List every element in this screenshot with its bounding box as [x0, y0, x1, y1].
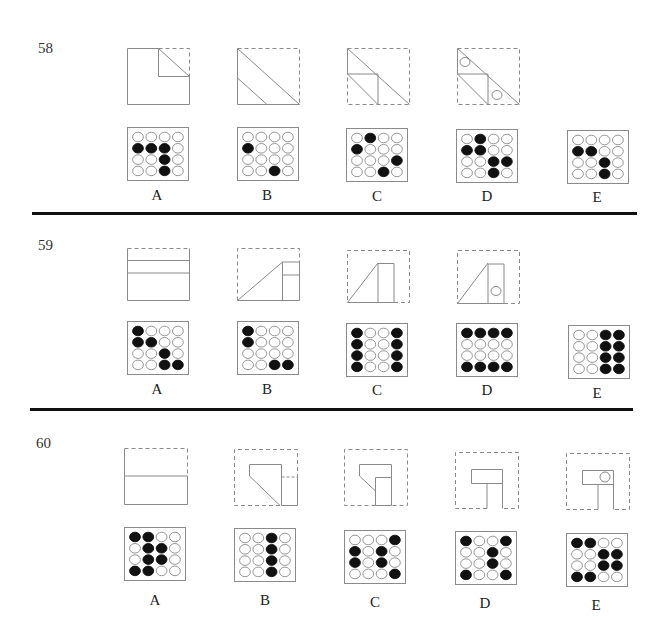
q59-option-b-label[interactable]: B: [247, 381, 287, 398]
q59-option-c-label[interactable]: C: [357, 382, 397, 399]
empty-dot-icon: [146, 166, 157, 176]
dot-grid: [237, 127, 299, 181]
empty-dot-icon: [253, 545, 264, 555]
filled-dot-icon: [462, 362, 473, 372]
q58-option-a-grid[interactable]: [127, 127, 189, 181]
empty-dot-icon: [240, 533, 251, 543]
empty-dot-icon: [256, 155, 267, 165]
q60-option-e-label[interactable]: E: [576, 597, 616, 614]
filled-dot-icon: [462, 146, 473, 156]
empty-dot-icon: [269, 326, 280, 336]
q58-option-d-grid[interactable]: [456, 129, 518, 183]
empty-dot-icon: [243, 155, 254, 165]
q58-option-e-grid[interactable]: [567, 130, 629, 184]
filled-dot-icon: [573, 147, 584, 157]
empty-dot-icon: [598, 538, 609, 548]
dot-grid: [455, 531, 517, 585]
q59-option-a-grid[interactable]: [127, 321, 189, 375]
filled-dot-icon: [156, 555, 167, 565]
q59-fold-step-1: [127, 248, 190, 301]
filled-dot-icon: [475, 362, 486, 372]
filled-dot-icon: [133, 144, 144, 154]
dot-grid: [124, 527, 186, 581]
filled-dot-icon: [488, 362, 499, 372]
filled-dot-icon: [502, 362, 513, 372]
empty-dot-icon: [283, 144, 294, 154]
empty-dot-icon: [475, 168, 486, 178]
empty-dot-icon: [365, 167, 376, 177]
filled-dot-icon: [146, 338, 157, 348]
empty-dot-icon: [586, 169, 597, 179]
empty-dot-icon: [501, 559, 512, 569]
q60-option-d-label[interactable]: D: [465, 595, 505, 612]
empty-dot-icon: [283, 349, 294, 359]
q58-option-d-label[interactable]: D: [467, 188, 507, 205]
empty-dot-icon: [488, 134, 499, 144]
q60-fold-step-1: [124, 448, 188, 505]
q59-fold-step-2-drawing: [237, 248, 300, 301]
q59-option-b-grid[interactable]: [237, 321, 299, 375]
empty-dot-icon: [363, 558, 374, 568]
q58-fold-step-3-drawing: [347, 48, 410, 105]
q60-fold-step-1-drawing: [124, 448, 188, 505]
filled-dot-icon: [598, 550, 609, 560]
q59-option-a-label[interactable]: A: [137, 381, 177, 398]
filled-dot-icon: [600, 364, 611, 374]
empty-dot-icon: [159, 326, 170, 336]
q60-option-a-grid[interactable]: [124, 527, 186, 581]
section-divider: [30, 408, 633, 411]
question-number-58: 58: [38, 40, 53, 57]
q59-option-e-grid[interactable]: [568, 325, 630, 379]
empty-dot-icon: [365, 362, 376, 372]
empty-dot-icon: [352, 133, 363, 143]
q60-option-c-label[interactable]: C: [355, 594, 395, 611]
q58-option-c-label[interactable]: C: [357, 188, 397, 205]
q59-option-d-label[interactable]: D: [467, 382, 507, 399]
empty-dot-icon: [574, 353, 585, 363]
q60-option-b-grid[interactable]: [234, 528, 296, 582]
q59-option-d-grid[interactable]: [456, 323, 518, 377]
q59-option-e-label[interactable]: E: [577, 385, 617, 402]
filled-dot-icon: [392, 340, 403, 350]
empty-dot-icon: [256, 349, 267, 359]
filled-dot-icon: [243, 338, 254, 348]
empty-dot-icon: [502, 168, 513, 178]
punch-hole-icon: [492, 91, 502, 100]
q60-option-a-label[interactable]: A: [135, 592, 175, 609]
filled-dot-icon: [614, 342, 625, 352]
q58-option-e-label[interactable]: E: [577, 189, 617, 206]
q58-option-b-grid[interactable]: [237, 127, 299, 181]
empty-dot-icon: [587, 364, 598, 374]
q58-option-b-label[interactable]: B: [247, 187, 287, 204]
empty-dot-icon: [240, 556, 251, 566]
dot-grid: [344, 530, 406, 584]
empty-dot-icon: [365, 328, 376, 338]
empty-dot-icon: [240, 545, 251, 555]
q60-option-e-grid[interactable]: [566, 533, 628, 587]
filled-dot-icon: [501, 570, 512, 580]
q59-option-c-grid[interactable]: [346, 323, 408, 377]
filled-dot-icon: [269, 360, 280, 370]
filled-dot-icon: [283, 360, 294, 370]
filled-dot-icon: [585, 538, 596, 548]
empty-dot-icon: [173, 155, 184, 165]
dot-grid: [566, 533, 628, 587]
empty-dot-icon: [256, 326, 267, 336]
q59-fold-step-3-drawing: [347, 250, 410, 303]
q58-option-a-label[interactable]: A: [137, 187, 177, 204]
empty-dot-icon: [363, 569, 374, 579]
empty-dot-icon: [283, 166, 294, 176]
dot-grid: [456, 129, 518, 183]
dot-grid: [346, 128, 408, 182]
q60-option-c-grid[interactable]: [344, 530, 406, 584]
q58-option-c-grid[interactable]: [346, 128, 408, 182]
empty-dot-icon: [502, 351, 513, 361]
q60-option-d-grid[interactable]: [455, 531, 517, 585]
empty-dot-icon: [392, 145, 403, 155]
filled-dot-icon: [159, 166, 170, 176]
filled-dot-icon: [352, 362, 363, 372]
q58-fold-step-2-drawing: [237, 48, 300, 105]
empty-dot-icon: [462, 340, 473, 350]
filled-dot-icon: [350, 558, 361, 568]
q60-option-b-label[interactable]: B: [245, 592, 285, 609]
